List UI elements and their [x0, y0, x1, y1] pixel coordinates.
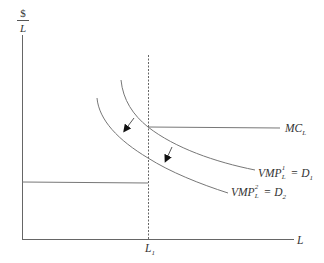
d1-main: VMP	[258, 167, 282, 179]
economics-diagram	[0, 0, 324, 263]
mc-main: MC	[285, 122, 302, 134]
d1-sup: 1	[282, 165, 286, 172]
shift-arrow-icon	[125, 118, 134, 130]
demand-curve-d2	[97, 98, 228, 193]
x-axis-label-text: L	[297, 234, 303, 246]
d1-sub: L	[282, 174, 286, 181]
d1-dsub: 1	[309, 174, 313, 182]
d1-scripts: 1L	[282, 168, 288, 180]
lower-wage-line	[22, 182, 148, 183]
d1-label: VMP1L = D1	[258, 168, 313, 182]
demand-curve-d1	[121, 80, 255, 170]
d2-eq: = D	[261, 186, 283, 198]
d2-label: VMP2L = D2	[231, 187, 286, 201]
d2-sub: L	[255, 193, 259, 200]
mc-line	[148, 127, 280, 128]
x-axis-label: L	[297, 235, 303, 247]
mc-sub: L	[302, 129, 306, 137]
y-axis-label: $ L	[17, 8, 29, 34]
y-axis-label-numerator: $	[17, 8, 29, 19]
mc-label: MCL	[285, 123, 306, 137]
l1-sub: 1	[151, 249, 155, 257]
fraction-bar	[17, 20, 29, 21]
d2-scripts: 2L	[255, 187, 261, 199]
y-axis-label-denominator: L	[17, 23, 29, 34]
d2-main: VMP	[231, 186, 255, 198]
d2-sup: 2	[255, 184, 259, 191]
d2-dsub: 2	[282, 193, 286, 201]
l1-tick-label: L1	[145, 243, 155, 257]
shift-arrow-icon	[166, 147, 172, 160]
d1-eq: = D	[288, 167, 310, 179]
